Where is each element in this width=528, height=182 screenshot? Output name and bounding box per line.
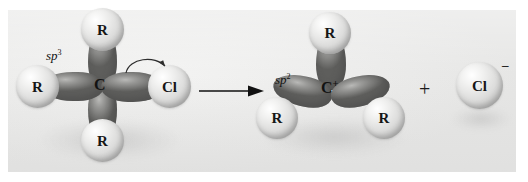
substituent-label-top: R [81, 21, 124, 38]
chloride-shadow [452, 108, 510, 130]
chloride-ion-charge-label: – [502, 57, 509, 73]
substituent-label-bottom: R [81, 132, 124, 149]
figure-canvas: R R R Cl C sp3 [0, 0, 528, 182]
plus-sign: + [419, 79, 430, 99]
substituent-label-left: R [16, 78, 59, 95]
carbocation-substituent-sphere-top: R [309, 12, 351, 54]
curved-electron-arrow [123, 52, 171, 76]
hybridization-label-sp3: sp3 [46, 48, 62, 64]
carbocation-substituent-label-bottom-right: R [363, 110, 405, 127]
substituent-sphere-top: R [81, 8, 124, 51]
chloride-ion-label: Cl [456, 77, 503, 94]
leaving-group-label-chlorine: Cl [148, 78, 191, 95]
carbocation-substituent-label-bottom-left: R [256, 110, 298, 127]
carbocation-substituent-sphere-bottom-right: R [363, 97, 405, 139]
chloride-ion-group: Cl – [448, 0, 518, 182]
product-carbocation-molecule: R R R C+ sp2 [255, 0, 410, 182]
hybridization-label-sp2: sp2 [275, 72, 291, 88]
carbocation-center-atom-label: C+ [321, 78, 339, 97]
substituent-sphere-bottom: R [81, 119, 124, 162]
reactant-center-atom-label: C [94, 76, 106, 94]
carbocation-substituent-label-top: R [309, 25, 351, 42]
reactant-molecule: R R R Cl C sp3 [0, 0, 210, 182]
chloride-ion-sphere: Cl [456, 62, 503, 109]
carbocation-substituent-sphere-bottom-left: R [256, 97, 298, 139]
substituent-sphere-left: R [16, 65, 59, 108]
